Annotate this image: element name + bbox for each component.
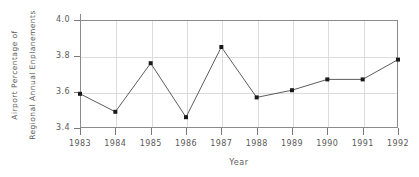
data-point-marker — [184, 115, 188, 119]
data-point-marker — [396, 58, 400, 62]
data-point-marker — [290, 88, 294, 92]
data-series — [0, 0, 419, 177]
data-point-marker — [78, 92, 82, 96]
data-point-marker — [325, 77, 329, 81]
data-point-marker — [113, 110, 117, 114]
series-line — [80, 47, 398, 117]
x-axis-title: Year — [229, 158, 248, 167]
data-point-marker — [149, 61, 153, 65]
data-point-marker — [361, 77, 365, 81]
data-point-marker — [255, 95, 259, 99]
chart-figure: Airport Percentage of Regional Annual En… — [0, 0, 419, 177]
data-point-marker — [219, 45, 223, 49]
